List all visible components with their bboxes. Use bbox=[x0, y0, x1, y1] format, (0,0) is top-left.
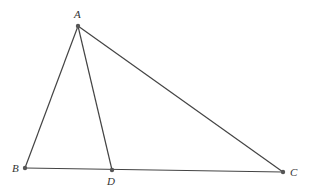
point-D bbox=[110, 168, 114, 172]
segment-AD bbox=[78, 26, 112, 170]
point-C bbox=[281, 170, 285, 174]
label-A: A bbox=[73, 8, 81, 20]
label-D: D bbox=[106, 175, 115, 187]
segment-AB bbox=[25, 26, 78, 168]
point-B bbox=[23, 166, 27, 170]
segment-AC bbox=[78, 26, 283, 172]
label-B: B bbox=[12, 162, 19, 174]
label-C: C bbox=[290, 166, 298, 178]
segment-BC bbox=[25, 168, 283, 172]
point-A bbox=[76, 24, 80, 28]
triangle-diagram: A B C D bbox=[0, 0, 312, 190]
